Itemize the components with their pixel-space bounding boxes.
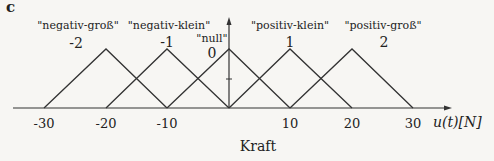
set-positiv-klein [229,49,352,108]
tick-label: -20 [96,116,117,131]
set-value-negativ-gross: -2 [69,35,83,51]
set-name-negativ-klein: "negativ-klein" [128,19,210,32]
x-axis-label: u(t)[N] [433,114,482,130]
tick-label: -10 [157,116,178,131]
set-value-positiv-klein: 1 [286,34,295,50]
set-name-positiv-klein: "positiv-klein" [251,19,329,32]
x-axis-arrow-icon [444,106,452,111]
set-name-positiv-gross: "positiv-groß" [344,19,421,32]
set-value-positiv-gross: 2 [380,34,389,50]
set-value-null: 0 [208,45,217,61]
set-value-negativ-klein: -1 [160,34,174,50]
y-axis-arrow-icon [227,17,232,25]
tick-label: -30 [34,116,55,131]
set-name-negativ-gross: "negativ-groß" [37,19,118,32]
set-positiv-gross [290,49,413,108]
tick-label: 20 [344,116,361,131]
tick-label: 10 [282,116,299,131]
set-negativ-gross [44,49,167,108]
x-axis-title: Kraft [240,138,276,154]
tick-label: 30 [405,116,422,131]
set-name-null: "null" [196,32,227,45]
